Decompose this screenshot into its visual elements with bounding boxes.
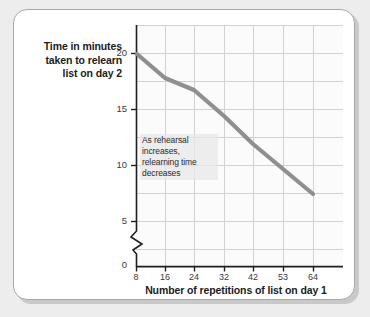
- y-axis-title-line-3: list on day 2: [18, 67, 122, 81]
- annotation-line-1: As rehearsal: [142, 135, 216, 146]
- y-tick-label-20: 20: [103, 47, 127, 58]
- y-tick-marks: [131, 54, 136, 222]
- annotation-line-2: increases,: [142, 146, 216, 157]
- chart-annotation: As rehearsal increases, relearning time …: [140, 134, 218, 180]
- annotation-line-3: relearning time: [142, 157, 216, 168]
- x-axis-title: Number of repetitions of list on day 1: [128, 284, 344, 296]
- x-tick-label-16: 16: [152, 272, 178, 282]
- x-tick-label-8: 8: [123, 272, 149, 282]
- x-tick-label-32: 32: [211, 272, 237, 282]
- x-tick-label-42: 42: [240, 272, 266, 282]
- x-tick-label-53: 53: [270, 272, 296, 282]
- annotation-line-4: decreases: [142, 168, 216, 179]
- x-tick-label-24: 24: [181, 272, 207, 282]
- y-tick-label-15: 15: [103, 103, 127, 114]
- x-tick-label-64: 64: [300, 272, 326, 282]
- y-tick-label-10: 10: [103, 159, 127, 170]
- y-tick-label-0: 0: [103, 259, 127, 270]
- y-tick-label-5: 5: [103, 215, 127, 226]
- line-chart: Time in minutes taken to relearn list on…: [0, 0, 370, 317]
